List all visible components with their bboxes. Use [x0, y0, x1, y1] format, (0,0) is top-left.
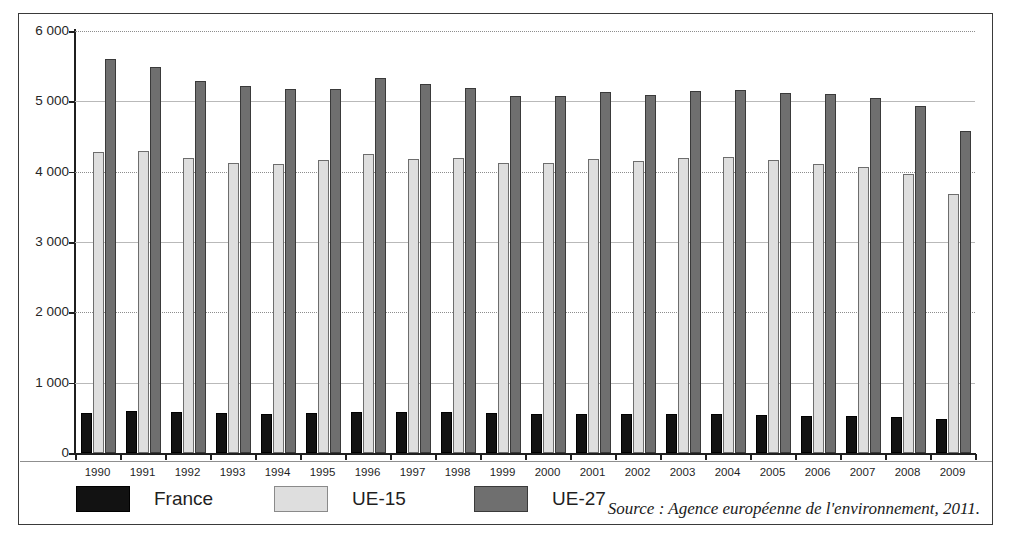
y-tick-mark-6000 — [69, 31, 75, 33]
bar-france-1994 — [261, 414, 272, 453]
bar-ue15-2003 — [678, 158, 689, 453]
x-tick-mark-2003 — [660, 454, 662, 460]
bar-ue15-1992 — [183, 158, 194, 453]
bar-group-2005 — [750, 31, 795, 453]
x-tick-mark-1994 — [255, 454, 257, 460]
chart-figure-frame: 01 0002 0003 0004 0005 0006 000 19901991… — [18, 13, 993, 525]
x-tick-mark-end — [975, 454, 977, 460]
bar-ue15-1998 — [453, 158, 464, 453]
bar-group-1998 — [435, 31, 480, 453]
legend-swatch-ue27-icon — [474, 486, 528, 512]
bar-france-1993 — [216, 413, 227, 453]
bar-ue15-1999 — [498, 163, 509, 453]
bar-ue27-1990 — [105, 59, 116, 453]
bar-ue15-2007 — [858, 167, 869, 453]
x-tick-mark-2007 — [840, 454, 842, 460]
bar-france-2000 — [531, 414, 542, 453]
legend-separator — [20, 461, 992, 462]
y-tick-mark-4000 — [69, 172, 75, 174]
bar-ue27-2008 — [915, 106, 926, 453]
bar-group-2008 — [885, 31, 930, 453]
bar-france-2003 — [666, 414, 677, 453]
bar-ue15-2000 — [543, 163, 554, 453]
bar-group-2007 — [840, 31, 885, 453]
bar-ue27-2003 — [690, 91, 701, 453]
bar-ue27-1993 — [240, 86, 251, 453]
x-tick-mark-1993 — [210, 454, 212, 460]
bar-group-1999 — [480, 31, 525, 453]
bar-ue15-2008 — [903, 174, 914, 453]
plot-area — [75, 31, 975, 453]
x-tick-mark-1990 — [75, 454, 77, 460]
bar-france-2006 — [801, 416, 812, 453]
x-tick-mark-1995 — [300, 454, 302, 460]
legend-label-ue27: UE-27 — [552, 488, 606, 510]
bar-ue27-1998 — [465, 88, 476, 453]
bar-group-2003 — [660, 31, 705, 453]
bar-ue27-1996 — [375, 78, 386, 453]
bar-ue15-2006 — [813, 164, 824, 453]
bar-ue27-1992 — [195, 81, 206, 453]
bar-ue15-2005 — [768, 160, 779, 453]
bar-group-2000 — [525, 31, 570, 453]
bar-ue27-2000 — [555, 96, 566, 453]
y-tick-mark-1000 — [69, 383, 75, 385]
y-tick-label-3000: 3 000 — [7, 234, 69, 249]
legend-label-ue15: UE-15 — [352, 488, 406, 510]
x-tick-mark-2002 — [615, 454, 617, 460]
bar-ue27-2005 — [780, 93, 791, 453]
legend-swatch-ue15-icon — [274, 486, 328, 512]
legend-label-france: France — [154, 488, 213, 510]
bar-france-1999 — [486, 413, 497, 453]
bar-group-2009 — [930, 31, 975, 453]
bar-ue27-1994 — [285, 89, 296, 453]
bar-france-1996 — [351, 412, 362, 453]
bar-ue27-1997 — [420, 84, 431, 453]
bar-france-1995 — [306, 413, 317, 453]
legend-item-ue15[interactable]: UE-15 — [274, 486, 406, 512]
bar-ue27-1991 — [150, 67, 161, 453]
bar-france-2005 — [756, 415, 767, 453]
source-note: Source : Agence européenne de l'environn… — [608, 499, 980, 519]
bar-france-1991 — [126, 411, 137, 453]
y-tick-label-6000: 6 000 — [7, 23, 69, 38]
y-tick-label-0: 0 — [7, 445, 69, 460]
bar-group-1992 — [165, 31, 210, 453]
bar-ue15-2009 — [948, 194, 959, 453]
bar-group-1997 — [390, 31, 435, 453]
bar-ue15-1995 — [318, 160, 329, 453]
bar-ue27-2002 — [645, 95, 656, 453]
x-tick-mark-2008 — [885, 454, 887, 460]
bar-group-2004 — [705, 31, 750, 453]
y-tick-mark-5000 — [69, 101, 75, 103]
x-tick-mark-2006 — [795, 454, 797, 460]
bar-france-1990 — [81, 413, 92, 453]
bar-ue27-1995 — [330, 89, 341, 453]
x-tick-mark-1999 — [480, 454, 482, 460]
bar-group-1993 — [210, 31, 255, 453]
bar-ue15-1997 — [408, 159, 419, 453]
bar-ue15-1990 — [93, 152, 104, 453]
y-tick-label-5000: 5 000 — [7, 93, 69, 108]
bar-ue27-2006 — [825, 94, 836, 453]
bar-ue27-2007 — [870, 98, 881, 453]
legend-item-france[interactable]: France — [76, 486, 213, 512]
y-tick-mark-3000 — [69, 242, 75, 244]
bar-france-1998 — [441, 412, 452, 453]
x-tick-mark-2009 — [930, 454, 932, 460]
cropped-title-sliver — [0, 0, 1011, 11]
x-tick-mark-1998 — [435, 454, 437, 460]
bar-group-1991 — [120, 31, 165, 453]
bar-ue15-1996 — [363, 154, 374, 453]
x-tick-mark-1996 — [345, 454, 347, 460]
legend-item-ue27[interactable]: UE-27 — [474, 486, 606, 512]
bar-ue15-1994 — [273, 164, 284, 453]
chart-legend: France UE-15 UE-27 Source : Agence europ… — [19, 469, 994, 524]
bar-ue27-1999 — [510, 96, 521, 453]
bar-group-1994 — [255, 31, 300, 453]
bar-france-2007 — [846, 416, 857, 453]
x-tick-mark-1997 — [390, 454, 392, 460]
y-tick-label-1000: 1 000 — [7, 375, 69, 390]
y-tick-mark-2000 — [69, 312, 75, 314]
x-tick-mark-2001 — [570, 454, 572, 460]
